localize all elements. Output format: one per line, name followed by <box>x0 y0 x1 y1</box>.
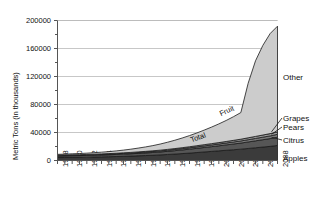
stacked-area-chart: Metric Tons (in thousands) 0400008000012… <box>0 0 324 201</box>
legend-item-grapes: Grapes <box>283 114 309 123</box>
legend-item-pears: Pears <box>283 123 304 132</box>
legend-item-citrus: Citrus <box>283 136 304 145</box>
legend-item-apples: Apples <box>283 154 307 163</box>
area-series-group <box>58 26 278 160</box>
plot-area <box>0 0 324 201</box>
legend-item-other: Other <box>283 73 303 82</box>
